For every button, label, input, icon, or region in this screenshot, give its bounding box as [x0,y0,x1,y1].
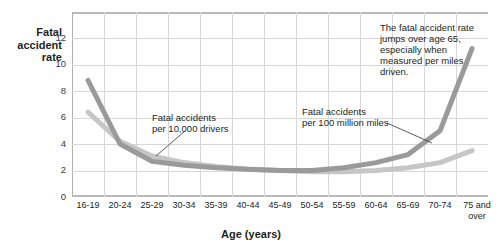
annotation-miles-line-1: Fatal accidents [302,106,389,117]
annotation-callout-text: The fatal accident rate jumps over age 6… [380,22,486,77]
x-tick-label-65-69: 65-69 [392,200,424,211]
x-tick-40-44-line-1: 40-44 [232,200,264,211]
series-line-fatal-accidents-per-10000-drivers [88,112,472,172]
annotation-callout: The fatal accident rate jumps over age 6… [380,22,486,77]
x-tick-60-64-line-1: 60-64 [360,200,392,211]
annotation-per-100-million-miles: Fatal accidents per 100 million miles [302,106,389,128]
x-tick-65-69-line-1: 65-69 [392,200,424,211]
x-tick-label-16-19: 16-19 [72,200,104,211]
x-tick-75-and-over-line-1: 75 and [456,200,498,211]
x-tick-45-49-line-1: 45-49 [264,200,296,211]
x-tick-20-24-line-1: 20-24 [104,200,136,211]
annotation-per-10000-drivers: Fatal accidents per 10,000 drivers [152,112,229,134]
y-tick-label-8: 8 [48,86,66,96]
y-tick-label-10: 10 [48,59,66,69]
x-tick-label-70-74: 70-74 [424,200,456,211]
x-tick-label-50-54: 50-54 [296,200,328,211]
fatal-accident-rate-chart: Fatal accident rate 12 10 8 6 4 2 0 [0,0,502,251]
y-tick-label-0: 0 [48,192,66,202]
x-tick-label-55-59: 55-59 [328,200,360,211]
annotation-drivers-line-2: per 10,000 drivers [152,123,229,134]
x-tick-30-34-line-1: 30-34 [168,200,200,211]
x-tick-50-54-line-1: 50-54 [296,200,328,211]
x-tick-label-45-49: 45-49 [264,200,296,211]
y-tick-label-4: 4 [48,139,66,149]
annotation-miles-line-2: per 100 million miles [302,117,389,128]
x-tick-label-20-24: 20-24 [104,200,136,211]
x-tick-35-39-line-1: 35-39 [200,200,232,211]
y-tick-label-6: 6 [48,112,66,122]
x-tick-75-and-over-line-2: over [456,211,498,222]
x-tick-label-30-34: 30-34 [168,200,200,211]
x-tick-label-35-39: 35-39 [200,200,232,211]
annotation-drivers-line-1: Fatal accidents [152,112,229,123]
x-tick-16-19-line-1: 16-19 [72,200,104,211]
x-tick-label-75-and-over: 75 and over [456,200,498,221]
x-axis-title: Age (years) [0,228,502,240]
x-tick-55-59-line-1: 55-59 [328,200,360,211]
x-tick-label-60-64: 60-64 [360,200,392,211]
x-tick-25-29-line-1: 25-29 [136,200,168,211]
y-tick-label-12: 12 [48,33,66,43]
x-tick-label-25-29: 25-29 [136,200,168,211]
y-tick-label-2: 2 [48,165,66,175]
x-tick-label-40-44: 40-44 [232,200,264,211]
x-tick-70-74-line-1: 70-74 [424,200,456,211]
